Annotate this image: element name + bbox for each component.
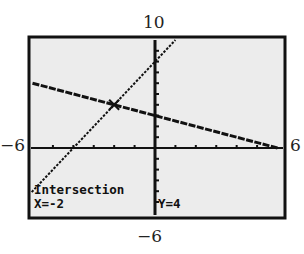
intersection-label: Intersection: [34, 182, 124, 197]
calculator-screen: Intersection X=-2 Y=4: [0, 0, 304, 254]
x-readout: X=-2: [34, 196, 64, 211]
y-readout: Y=4: [158, 196, 181, 211]
